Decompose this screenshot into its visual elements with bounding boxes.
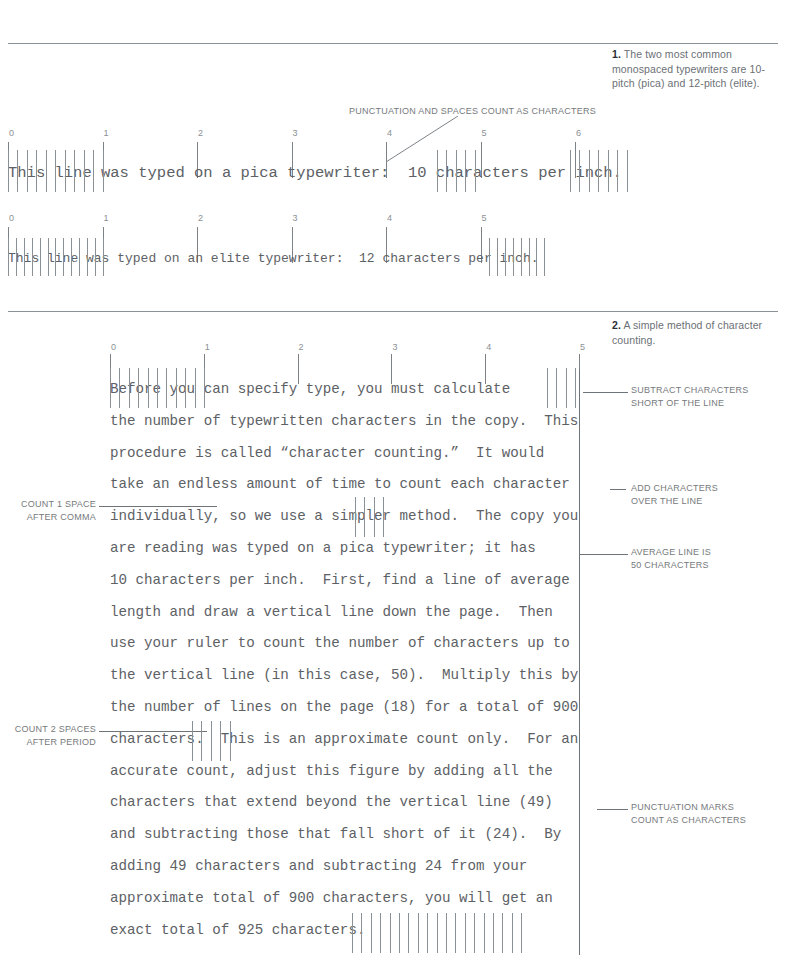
annotation-add-characters: ADD CHARACTERS OVER THE LINE (631, 482, 718, 507)
char-tick-elite (95, 238, 96, 276)
body-copy-line: exact total of 925 characters. (110, 922, 365, 938)
char-tick-body (364, 497, 365, 537)
ruler-tick-major (391, 354, 392, 384)
char-tick-body (455, 913, 456, 953)
char-tick-body (408, 913, 409, 953)
char-tick-body (390, 913, 391, 953)
annotation-average-line1: AVERAGE LINE IS (631, 546, 711, 559)
char-tick-body (465, 913, 466, 953)
char-tick-pica (8, 150, 9, 192)
char-tick-pica (608, 150, 609, 192)
char-tick-body (166, 368, 167, 408)
char-tick-body (204, 368, 205, 408)
char-tick-pica (46, 150, 47, 192)
char-tick-body (371, 913, 372, 953)
ruler-number: 1 (205, 342, 210, 352)
char-tick-body (383, 497, 384, 537)
ruler-number: 3 (392, 342, 397, 352)
ruler-number: 0 (9, 128, 14, 138)
char-tick-pica (17, 150, 18, 192)
char-tick-elite (513, 238, 514, 276)
char-tick-body (201, 721, 202, 761)
char-tick-pica (437, 150, 438, 192)
annotation-add-line1: ADD CHARACTERS (631, 482, 718, 495)
body-copy-line: Before you can specify type, you must ca… (110, 381, 510, 397)
char-tick-body (138, 368, 139, 408)
char-tick-pica (446, 150, 447, 192)
ruler-number: 0 (9, 213, 14, 223)
ruler-number: 5 (580, 342, 585, 352)
char-tick-body (361, 913, 362, 953)
char-tick-body (437, 913, 438, 953)
annotation-comma-line2: AFTER COMMA (0, 511, 96, 524)
char-tick-pica (598, 150, 599, 192)
ruler-number: 2 (299, 342, 304, 352)
body-copy-line: are reading was typed on a pica typewrit… (110, 540, 536, 556)
ruler-number: 4 (486, 342, 491, 352)
ruler-number: 3 (293, 213, 298, 223)
char-tick-elite (103, 238, 104, 276)
body-copy-line: accurate count, adjust this figure by ad… (110, 763, 553, 779)
char-tick-pica (579, 150, 580, 192)
ruler-number: 1 (104, 213, 109, 223)
ruler-number: 2 (198, 128, 203, 138)
caption-figure-2: 2. A simple method of character counting… (612, 318, 772, 347)
char-tick-elite (87, 238, 88, 276)
char-tick-elite (16, 238, 17, 276)
caption-figure-1: 1. The two most common monospaced typewr… (612, 47, 772, 91)
caption-2-text: A simple method of character counting. (612, 319, 762, 346)
char-tick-elite (529, 238, 530, 276)
annotation-subtract-characters: SUBTRACT CHARACTERS SHORT OF THE LINE (631, 384, 749, 409)
body-copy-line: 10 characters per inch. First, find a li… (110, 572, 570, 588)
body-copy-line: length and draw a vertical line down the… (110, 604, 553, 620)
annotation-period-line1: COUNT 2 SPACES (0, 723, 96, 736)
char-tick-body (474, 913, 475, 953)
vertical-measuring-line (579, 370, 580, 955)
char-tick-elite (32, 238, 33, 276)
char-tick-body (502, 913, 503, 953)
char-tick-elite (63, 238, 64, 276)
ruler-number: 5 (482, 213, 487, 223)
specimen-pica-line: This line was typed on a pica typewriter… (8, 164, 622, 182)
annotation-punct-line2: COUNT AS CHARACTERS (631, 814, 746, 827)
char-tick-body (380, 913, 381, 953)
ruler-tick-major (485, 354, 486, 384)
char-tick-pica (84, 150, 85, 192)
page-root: 1. The two most common monospaced typewr… (0, 0, 787, 966)
leader-punctuation (597, 809, 628, 810)
annotation-average-line: AVERAGE LINE IS 50 CHARACTERS (631, 546, 711, 571)
annotation-count-2-spaces: COUNT 2 SPACES AFTER PERIOD (0, 723, 96, 748)
caption-1-text: The two most common monospaced typewrite… (612, 48, 765, 89)
char-tick-body (195, 368, 196, 408)
char-tick-elite (40, 238, 41, 276)
annotation-punct-line1: PUNCTUATION MARKS (631, 801, 746, 814)
leader-average (579, 554, 628, 555)
leader-add (610, 489, 626, 490)
char-tick-body (211, 721, 212, 761)
ruler-number: 0 (111, 342, 116, 352)
char-tick-elite (71, 238, 72, 276)
annotation-punctuation-marks: PUNCTUATION MARKS COUNT AS CHARACTERS (631, 801, 746, 826)
body-copy-line: take an endless amount of time to count … (110, 476, 570, 492)
ruler-number: 3 (293, 128, 298, 138)
char-tick-pica (55, 150, 56, 192)
body-copy-line: the number of typewritten characters in … (110, 413, 578, 429)
char-tick-body (556, 368, 557, 408)
leader-count-1-space (99, 506, 217, 507)
char-tick-pica (103, 150, 104, 192)
char-tick-body (512, 913, 513, 953)
char-tick-pica (36, 150, 37, 192)
char-tick-pica (570, 150, 571, 192)
char-tick-elite (505, 238, 506, 276)
ruler-number: 5 (482, 128, 487, 138)
char-tick-elite (489, 238, 490, 276)
ruler-tick-major (298, 354, 299, 384)
body-copy-line: the number of lines on the page (18) for… (110, 699, 578, 715)
char-tick-body (192, 721, 193, 761)
ruler-number: 6 (576, 128, 581, 138)
annotation-period-line2: AFTER PERIOD (0, 736, 96, 749)
char-tick-pica (456, 150, 457, 192)
char-tick-pica (93, 150, 94, 192)
char-tick-elite (55, 238, 56, 276)
char-tick-body (493, 913, 494, 953)
